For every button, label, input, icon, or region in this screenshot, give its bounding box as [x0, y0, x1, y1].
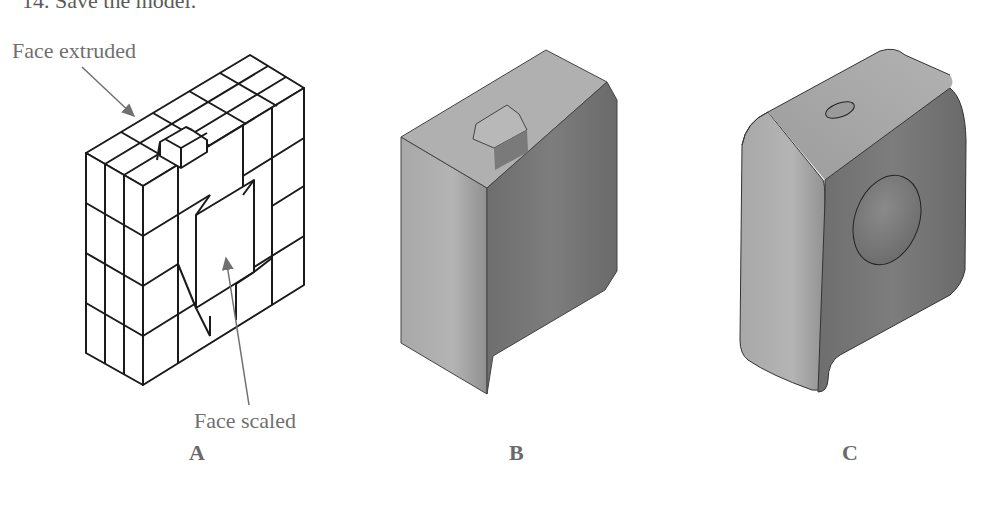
figure-b-shaded-model — [401, 50, 617, 394]
figure-c-smooth-model — [740, 49, 966, 392]
callout-arrow-face-extruded — [82, 67, 134, 116]
caption-c: C — [842, 440, 858, 466]
figure-canvas — [0, 0, 996, 505]
caption-a: A — [189, 440, 205, 466]
label-face-scaled: Face scaled — [194, 408, 296, 434]
figure-a-wireframe — [86, 55, 304, 385]
label-face-extruded: Face extruded — [12, 38, 136, 64]
caption-b: B — [509, 440, 524, 466]
